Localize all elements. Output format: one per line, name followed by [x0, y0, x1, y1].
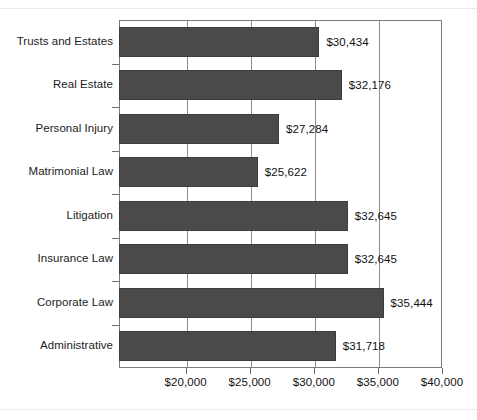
bar-value-label: $27,284: [286, 114, 328, 144]
x-axis-ticks: [119, 368, 442, 374]
bar[interactable]: [119, 201, 348, 231]
y-axis-tick: [112, 64, 119, 65]
bar-row: $35,444: [119, 288, 442, 318]
category-label: Personal Injury: [1, 122, 113, 134]
bar-row: $31,718: [119, 331, 442, 361]
bar-row: $32,645: [119, 244, 442, 274]
category-label: Matrimonial Law: [1, 165, 113, 177]
bar-row: $25,622: [119, 157, 442, 187]
bar-value-label: $32,176: [349, 70, 391, 100]
bar[interactable]: [119, 70, 342, 100]
bar-row: $27,284: [119, 114, 442, 144]
bar-value-label: $31,718: [343, 331, 385, 361]
bar[interactable]: [119, 244, 348, 274]
y-axis-tick: [112, 194, 119, 195]
x-axis-tick-label: $20,000: [165, 376, 207, 388]
x-axis-tick-label: $25,000: [229, 376, 271, 388]
x-axis-tick: [442, 368, 443, 374]
x-axis-tick: [314, 368, 315, 374]
bar-value-label: $35,444: [391, 288, 433, 318]
bar-value-label: $32,645: [355, 244, 397, 274]
y-axis-tick: [112, 151, 119, 152]
category-label: Litigation: [1, 209, 113, 221]
x-axis-tick-label: $30,000: [293, 376, 335, 388]
page-rule-bottom: [0, 409, 477, 410]
y-axis-tick: [112, 107, 119, 108]
page-rule-top: [0, 8, 477, 9]
category-label: Insurance Law: [1, 252, 113, 264]
bar[interactable]: [119, 288, 384, 318]
y-axis-tick: [112, 281, 119, 282]
bar[interactable]: [119, 114, 279, 144]
category-label: Real Estate: [1, 78, 113, 90]
bar-row: $32,176: [119, 70, 442, 100]
y-axis-tick: [112, 325, 119, 326]
bar[interactable]: [119, 27, 319, 57]
x-axis-tick: [186, 368, 187, 374]
category-axis: Trusts and EstatesReal EstatePersonal In…: [0, 20, 113, 368]
x-axis-tick: [250, 368, 251, 374]
category-label: Corporate Law: [1, 296, 113, 308]
bar-value-label: $32,645: [355, 201, 397, 231]
bar[interactable]: [119, 157, 258, 187]
category-label: Administrative: [1, 339, 113, 351]
x-axis-labels: $20,000$25,000$30,000$35,000$40,000: [0, 376, 477, 394]
bar-value-label: $25,622: [265, 157, 307, 187]
bar-row: $30,434: [119, 27, 442, 57]
bar[interactable]: [119, 331, 336, 361]
x-axis-tick-label: $35,000: [357, 376, 399, 388]
x-axis-tick-label: $40,000: [421, 376, 463, 388]
x-axis-tick: [378, 368, 379, 374]
y-axis-tick: [112, 238, 119, 239]
bars-layer: $30,434$32,176$27,284$25,622$32,645$32,6…: [119, 20, 442, 368]
bar-value-label: $30,434: [326, 27, 368, 57]
category-label: Trusts and Estates: [1, 35, 113, 47]
bar-chart-figure: Trusts and EstatesReal EstatePersonal In…: [0, 0, 477, 420]
bar-row: $32,645: [119, 201, 442, 231]
